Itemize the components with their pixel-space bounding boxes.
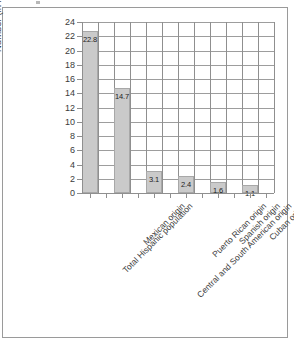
x-tick-mark [122, 193, 123, 198]
y-tick-label: 10 [55, 117, 75, 127]
y-tick-mark [77, 165, 82, 166]
y-tick-mark [77, 36, 82, 37]
x-tick-mark [250, 193, 251, 198]
y-tick-mark [77, 93, 82, 94]
x-tick-mark [154, 193, 155, 198]
y-axis-tick-labels: 024681012141618202224 [0, 0, 294, 343]
y-axis-title: Number (in millions) [0, 0, 3, 52]
x-tick-mark-minor [170, 193, 171, 198]
y-tick-mark [77, 79, 82, 80]
x-tick-mark [90, 193, 91, 198]
x-tick-mark-minor [202, 193, 203, 198]
y-tick-label: 8 [55, 131, 75, 141]
y-tick-mark [77, 150, 82, 151]
y-tick-label: 12 [55, 103, 75, 113]
y-tick-mark [77, 122, 82, 123]
y-tick-mark [77, 65, 82, 66]
y-tick-mark [77, 136, 82, 137]
x-tick-mark-minor [234, 193, 235, 198]
y-tick-label: 24 [55, 17, 75, 27]
y-tick-mark [77, 22, 82, 23]
y-tick-label: 0 [55, 188, 75, 198]
x-tick-mark-minor [266, 193, 267, 198]
y-tick-label: 20 [55, 46, 75, 56]
y-tick-label: 18 [55, 60, 75, 70]
y-tick-label: 14 [55, 88, 75, 98]
y-tick-label: 4 [55, 160, 75, 170]
y-tick-mark [77, 193, 82, 194]
y-tick-label: 16 [55, 74, 75, 84]
x-tick-mark [186, 193, 187, 198]
y-tick-label: 6 [55, 145, 75, 155]
y-tick-label: 2 [55, 174, 75, 184]
y-tick-label: 22 [55, 31, 75, 41]
x-tick-mark [218, 193, 219, 198]
chart-figure: 22.814.73.12.41.61.1 0246810121416182022… [0, 0, 294, 343]
x-tick-mark-minor [138, 193, 139, 198]
y-tick-mark [77, 51, 82, 52]
x-tick-mark-minor [106, 193, 107, 198]
y-tick-mark [77, 108, 82, 109]
y-tick-mark [77, 179, 82, 180]
